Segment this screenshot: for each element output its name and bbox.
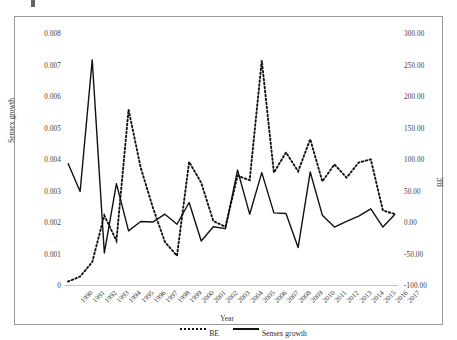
legend-label: BE: [209, 329, 219, 338]
y-right-tick-6: 200.00: [404, 93, 444, 101]
y-right-tick-5: 150.00: [404, 125, 444, 133]
y-left-tick-7: 0.007: [27, 62, 61, 70]
y-left-tick-4: 0.004: [27, 156, 61, 164]
x-axis-tick-labels: 1990199119921993199419951996199719981999…: [65, 287, 398, 315]
figure-root: 00.0010.0020.0030.0040.0050.0060.0070.00…: [0, 0, 457, 340]
y-left-tick-3: 0.003: [27, 188, 61, 196]
y-right-tick-0: -100.00: [404, 282, 444, 290]
plot-area: [65, 34, 398, 286]
legend-item-sensex-growth[interactable]: Sensex growth: [233, 328, 307, 338]
clipped-glyph-mark: [31, 0, 35, 7]
figure-frame: 00.0010.0020.0030.0040.0050.0060.0070.00…: [14, 16, 443, 325]
y-left-tick-1: 0.001: [27, 251, 61, 259]
chart-canvas: [65, 34, 398, 286]
series-line-be: [68, 60, 395, 281]
y-right-tick-8: 300.00: [404, 30, 444, 38]
y-left-tick-0: 0: [27, 282, 61, 290]
y-right-tick-7: 250.00: [404, 62, 444, 70]
legend-swatch-dotted-icon: [180, 328, 206, 336]
x-tick-label-2017: 2017: [406, 289, 422, 305]
x-axis-title: Year: [220, 314, 234, 323]
y-left-tick-6: 0.006: [27, 93, 61, 101]
legend-swatch-solid-line-icon: [233, 328, 259, 336]
y-right-tick-4: 100.00: [404, 156, 444, 164]
legend-item-be[interactable]: BE: [180, 328, 219, 338]
legend-label: Sensex growth: [262, 329, 307, 338]
y-axis-left-title: Sensex growth: [7, 98, 16, 143]
y-left-tick-2: 0.002: [27, 219, 61, 227]
y-left-tick-5: 0.005: [27, 125, 61, 133]
y-right-tick-1: -50.00: [404, 251, 444, 259]
y-right-tick-2: 0.00: [404, 219, 444, 227]
y-right-tick-3: 50.00: [404, 188, 444, 196]
chart-legend: BESensex growth: [15, 328, 457, 338]
y-left-tick-8: 0.008: [27, 30, 61, 38]
y-axis-right-title: BE: [436, 177, 445, 187]
